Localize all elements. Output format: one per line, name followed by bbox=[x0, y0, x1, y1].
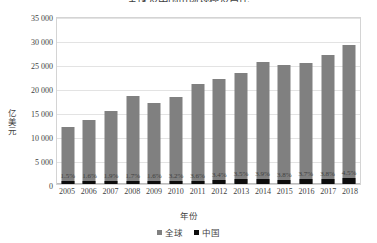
legend-swatch-china-icon bbox=[194, 230, 199, 235]
china-share-data-label: 1.6% bbox=[82, 173, 97, 180]
bar-global[interactable] bbox=[234, 73, 247, 184]
bar-global[interactable] bbox=[213, 79, 226, 184]
x-axis-tick-label: 2010 bbox=[165, 187, 187, 196]
y-axis-tick-label: 20 000 bbox=[31, 86, 53, 95]
y-axis-tick-label: 0 bbox=[49, 182, 53, 191]
bar-china[interactable] bbox=[278, 180, 291, 184]
plot-area: 05 00010 00015 00020 00025 00030 00035 0… bbox=[56, 17, 361, 185]
bar-global[interactable] bbox=[321, 55, 334, 184]
x-axis-tick-label: 2016 bbox=[296, 187, 318, 196]
bar-group[interactable]: 3.8% bbox=[273, 18, 295, 184]
bar-group[interactable]: 3.9% bbox=[252, 18, 274, 184]
china-share-data-label: 1.6% bbox=[147, 173, 162, 180]
bar-group[interactable]: 3.5% bbox=[230, 18, 252, 184]
bar-group[interactable]: 1.5% bbox=[57, 18, 79, 184]
y-axis-tick-label: 5 000 bbox=[35, 158, 53, 167]
china-share-data-label: 3.7% bbox=[299, 171, 314, 178]
china-share-data-label: 1.9% bbox=[104, 173, 119, 180]
china-share-data-label: 3.2% bbox=[169, 173, 184, 180]
x-axis-tick-label: 2012 bbox=[208, 187, 230, 196]
bar-china[interactable] bbox=[148, 181, 161, 184]
bar-group[interactable]: 3.7% bbox=[295, 18, 317, 184]
bar-china[interactable] bbox=[83, 181, 96, 184]
bar-group[interactable]: 1.9% bbox=[100, 18, 122, 184]
x-axis-tick-label: 2018 bbox=[339, 187, 361, 196]
bar-china[interactable] bbox=[61, 181, 74, 184]
bar-china[interactable] bbox=[126, 181, 139, 184]
x-axis-tick-labels: 2005200620072008200920102011201220132014… bbox=[56, 187, 361, 196]
x-axis-tick-label: 2015 bbox=[274, 187, 296, 196]
x-axis-tick-label: 2006 bbox=[78, 187, 100, 196]
x-axis-tick-label: 2005 bbox=[56, 187, 78, 196]
x-axis-tick-label: 2008 bbox=[121, 187, 143, 196]
bar-china[interactable] bbox=[256, 179, 269, 184]
china-share-data-label: 3.4% bbox=[212, 172, 227, 179]
bar-china[interactable] bbox=[191, 181, 204, 184]
china-share-data-label: 3.8% bbox=[277, 172, 292, 179]
x-axis-tick-label: 2011 bbox=[187, 187, 209, 196]
chart-title: 全球及中国市场规模及占比 bbox=[0, 0, 377, 2]
bar-china[interactable] bbox=[213, 180, 226, 184]
y-axis-tick-label: 10 000 bbox=[31, 134, 53, 143]
bar-global[interactable] bbox=[278, 65, 291, 184]
y-axis-tick-label: 30 000 bbox=[31, 38, 53, 47]
bar-chart: 全球及中国市场规模及占比 亿美元 05 00010 00015 00020 00… bbox=[0, 0, 377, 243]
bar-global[interactable] bbox=[191, 84, 204, 184]
china-share-data-label: 4.5% bbox=[342, 170, 357, 177]
x-axis-tick-label: 2014 bbox=[252, 187, 274, 196]
chart-legend: 全球 中国 bbox=[0, 226, 377, 238]
bar-global[interactable] bbox=[256, 62, 269, 184]
bar-global[interactable] bbox=[126, 96, 139, 184]
bar-group[interactable]: 1.6% bbox=[144, 18, 166, 184]
legend-swatch-global-icon bbox=[157, 230, 162, 235]
x-axis-title: 年份 bbox=[0, 209, 377, 221]
china-share-data-label: 3.5% bbox=[234, 171, 249, 178]
y-axis-tick-label: 35 000 bbox=[31, 14, 53, 23]
bar-global[interactable] bbox=[170, 97, 183, 184]
x-axis-tick-label: 2007 bbox=[100, 187, 122, 196]
bar-group[interactable]: 4.5% bbox=[338, 18, 360, 184]
legend-label-china: 中国 bbox=[202, 226, 220, 238]
y-axis-tick-label: 15 000 bbox=[31, 110, 53, 119]
bar-group[interactable]: 3.2% bbox=[165, 18, 187, 184]
y-axis-title: 亿美元 bbox=[6, 108, 15, 135]
bar-china[interactable] bbox=[321, 179, 334, 184]
bar-china[interactable] bbox=[170, 181, 183, 184]
bar-group[interactable]: 3.6% bbox=[187, 18, 209, 184]
china-share-data-label: 1.5% bbox=[61, 173, 76, 180]
x-axis-tick-label: 2017 bbox=[317, 187, 339, 196]
bar-china[interactable] bbox=[343, 178, 356, 184]
china-share-data-label: 3.9% bbox=[255, 171, 270, 178]
china-share-data-label: 3.8% bbox=[320, 171, 335, 178]
bar-group[interactable]: 1.7% bbox=[122, 18, 144, 184]
y-axis-tick-label: 25 000 bbox=[31, 62, 53, 71]
china-share-data-label: 1.7% bbox=[125, 173, 140, 180]
bar-group[interactable]: 1.6% bbox=[79, 18, 101, 184]
x-axis-tick-label: 2013 bbox=[230, 187, 252, 196]
bar-china[interactable] bbox=[234, 179, 247, 184]
bar-china[interactable] bbox=[299, 179, 312, 184]
legend-item-global[interactable]: 全球 bbox=[157, 226, 183, 238]
bar-china[interactable] bbox=[105, 181, 118, 184]
x-axis-tick-label: 2009 bbox=[143, 187, 165, 196]
legend-item-china[interactable]: 中国 bbox=[194, 226, 220, 238]
bar-global[interactable] bbox=[299, 63, 312, 184]
bar-global[interactable] bbox=[343, 45, 356, 184]
china-share-data-label: 3.6% bbox=[190, 173, 205, 180]
legend-label-global: 全球 bbox=[165, 226, 183, 238]
bar-group[interactable]: 3.8% bbox=[317, 18, 339, 184]
bar-group[interactable]: 3.4% bbox=[208, 18, 230, 184]
bar-series-container: 1.5%1.6%1.9%1.7%1.6%3.2%3.6%3.4%3.5%3.9%… bbox=[57, 18, 360, 184]
